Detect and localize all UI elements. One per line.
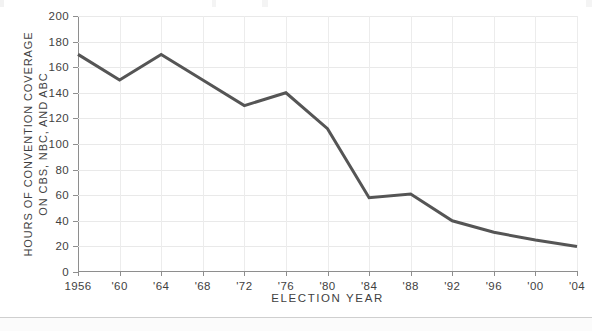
y-tick-label: 160 <box>49 61 69 73</box>
x-tick-label: 1956 <box>64 280 91 292</box>
y-axis-title-line-1: HOURS OF CONVENTION COVERAGE <box>21 31 36 256</box>
x-tick-label: '04 <box>569 280 585 292</box>
line-chart-figure: HOURS OF CONVENTION COVERAGE ON CBS, NBC… <box>0 0 592 331</box>
gridline-vertical <box>577 16 578 271</box>
bottom-margin <box>0 318 592 331</box>
y-tick-label: 20 <box>55 240 69 252</box>
x-tick-mark <box>577 271 578 276</box>
x-tick-label: '96 <box>486 280 502 292</box>
x-tick-label: '88 <box>403 280 419 292</box>
x-tick-label: '68 <box>195 280 211 292</box>
y-tick-label: 80 <box>55 164 69 176</box>
y-tick-label: 180 <box>49 36 69 48</box>
x-tick-label: '80 <box>319 280 335 292</box>
x-tick-label: '84 <box>361 280 377 292</box>
x-tick-label: '76 <box>278 280 294 292</box>
x-tick-label: '00 <box>527 280 543 292</box>
y-tick-label: 200 <box>49 10 69 22</box>
y-tick-label: 40 <box>55 215 69 227</box>
y-tick-label: 60 <box>55 189 69 201</box>
y-tick-label: 100 <box>49 138 69 150</box>
y-tick-label: 0 <box>62 266 69 278</box>
x-tick-label: '72 <box>236 280 252 292</box>
series-polyline <box>78 54 577 246</box>
x-tick-label: '64 <box>153 280 169 292</box>
x-axis-title: ELECTION YEAR <box>78 292 577 304</box>
y-tick-label: 140 <box>49 87 69 99</box>
plot-area: 200180160140120100806040200 1956'60'64'6… <box>78 16 577 272</box>
y-tick-label: 120 <box>49 112 69 124</box>
coverage-hours-line-series <box>78 16 577 272</box>
x-tick-label: '92 <box>444 280 460 292</box>
x-tick-label: '60 <box>111 280 127 292</box>
